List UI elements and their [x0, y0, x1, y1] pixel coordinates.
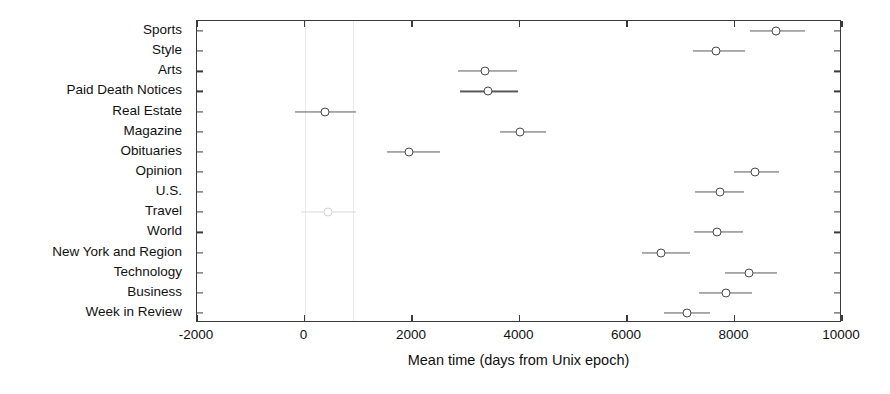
data-point-marker	[715, 188, 724, 197]
y-axis-tick-label: Week in Review	[85, 305, 182, 319]
data-point-marker	[484, 87, 493, 96]
data-point-marker	[481, 67, 490, 76]
y-axis-tick	[197, 192, 203, 193]
y-axis-tick	[197, 151, 203, 152]
y-axis-tick	[197, 51, 203, 52]
y-axis-tick	[834, 171, 840, 172]
y-axis-tick	[834, 312, 840, 313]
y-axis-tick	[197, 71, 203, 72]
data-point-marker	[750, 168, 759, 177]
x-axis-tick-label: 0	[300, 328, 308, 342]
data-point-marker	[711, 47, 720, 56]
data-point-marker	[683, 308, 692, 317]
y-axis-tick	[197, 30, 203, 31]
x-axis-tick	[841, 315, 842, 321]
x-axis-tick-label: -2000	[179, 328, 214, 342]
x-axis-tick-label: 10000	[822, 328, 860, 342]
y-axis-tick	[834, 131, 840, 132]
x-axis-tick-label: 4000	[503, 328, 533, 342]
x-axis-tick-top	[841, 21, 842, 27]
y-axis-tick	[197, 252, 203, 253]
error-bar	[642, 252, 691, 253]
data-point-marker	[771, 27, 780, 36]
x-axis-tick-top	[196, 21, 197, 27]
y-axis-tick-label: Sports	[143, 23, 182, 37]
y-axis-tick	[197, 91, 203, 92]
data-point-marker	[745, 268, 754, 277]
y-axis-tick	[834, 111, 840, 112]
y-axis-tick	[197, 131, 203, 132]
y-axis-tick	[197, 111, 203, 112]
y-axis-tick	[834, 272, 840, 273]
x-axis-tick-top	[411, 21, 412, 27]
x-axis-tick	[626, 315, 627, 321]
y-axis-tick	[834, 51, 840, 52]
dot-plot-figure: SportsStyleArtsPaid Death NoticesReal Es…	[0, 0, 890, 394]
y-axis-tick-label: Technology	[114, 265, 182, 279]
x-axis-tick	[734, 315, 735, 321]
x-axis-tick-top	[626, 21, 627, 27]
x-axis-tick-label: 6000	[611, 328, 641, 342]
y-axis-tick	[834, 292, 840, 293]
data-point-marker	[516, 127, 525, 136]
y-axis-tick	[834, 252, 840, 253]
data-point-marker	[721, 288, 730, 297]
x-axis-tick-top	[734, 21, 735, 27]
vertical-guide-line	[353, 21, 354, 321]
y-axis-tick	[834, 30, 840, 31]
y-axis-tick	[197, 292, 203, 293]
data-point-marker	[405, 147, 414, 156]
data-point-marker	[321, 107, 330, 116]
y-axis-tick-label: World	[147, 225, 182, 239]
y-axis-tick-label: New York and Region	[52, 245, 182, 259]
y-axis-tick-label: Magazine	[123, 124, 182, 138]
y-axis-label-group: SportsStyleArtsPaid Death NoticesReal Es…	[0, 20, 190, 322]
y-axis-tick	[834, 192, 840, 193]
y-axis-tick	[834, 212, 840, 213]
x-axis-tick-label: 8000	[718, 328, 748, 342]
y-axis-tick-label: Obituaries	[120, 144, 182, 158]
x-axis-tick	[304, 315, 305, 321]
y-axis-tick	[197, 171, 203, 172]
y-axis-tick-label: Style	[152, 43, 182, 57]
x-axis-tick-top	[519, 21, 520, 27]
x-axis-tick	[519, 315, 520, 321]
y-axis-tick-label: Real Estate	[112, 104, 182, 118]
vertical-guide-line	[305, 21, 306, 321]
x-axis-tick-label: 2000	[396, 328, 426, 342]
y-axis-tick	[197, 312, 203, 313]
data-point-marker	[323, 208, 332, 217]
data-point-marker	[712, 228, 721, 237]
y-axis-tick-label: Business	[127, 285, 182, 299]
y-axis-tick	[197, 272, 203, 273]
y-axis-tick	[834, 151, 840, 152]
data-point-marker	[656, 248, 665, 257]
y-axis-tick	[197, 212, 203, 213]
y-axis-tick-label: U.S.	[156, 184, 182, 198]
y-axis-tick-label: Opinion	[135, 164, 182, 178]
y-axis-tick-label: Travel	[145, 205, 182, 219]
y-axis-tick	[834, 232, 840, 233]
y-axis-tick	[197, 232, 203, 233]
plot-area	[196, 20, 841, 322]
y-axis-tick	[834, 71, 840, 72]
y-axis-tick-label: Paid Death Notices	[66, 84, 182, 98]
x-axis-title: Mean time (days from Unix epoch)	[196, 352, 841, 368]
y-axis-tick-label: Arts	[158, 64, 182, 78]
x-axis-tick-top	[304, 21, 305, 27]
x-axis-tick	[196, 315, 197, 321]
y-axis-tick	[834, 91, 840, 92]
x-axis-tick	[411, 315, 412, 321]
